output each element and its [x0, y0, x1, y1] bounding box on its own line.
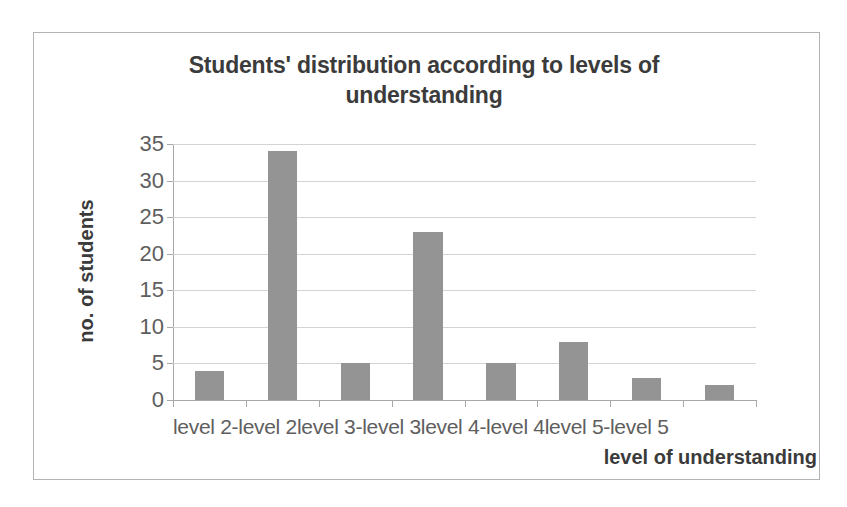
x-axis-tick — [756, 400, 757, 407]
x-axis-title: level of understanding — [173, 446, 817, 469]
bar — [341, 363, 370, 400]
y-axis-tick-label: 5 — [152, 350, 164, 376]
bar — [413, 232, 442, 400]
x-axis-tick — [683, 400, 684, 407]
y-axis-tick-label: 30 — [140, 168, 164, 194]
chart-title-line-1: Students' distribution according to leve… — [94, 51, 754, 81]
bar — [559, 342, 588, 401]
y-axis-tick-label: 35 — [140, 131, 164, 157]
x-axis-tick — [392, 400, 393, 407]
x-axis-tick — [319, 400, 320, 407]
y-axis-tick-label: 10 — [140, 314, 164, 340]
x-axis-tick — [610, 400, 611, 407]
x-axis-tick — [246, 400, 247, 407]
plot-area: 05101520253035 — [173, 144, 756, 400]
chart-title: Students' distribution according to leve… — [94, 51, 754, 111]
bar — [486, 363, 515, 400]
y-axis-tick-label: 20 — [140, 241, 164, 267]
y-axis-title: no. of students — [75, 199, 98, 342]
bar — [268, 151, 297, 400]
x-axis-tick — [537, 400, 538, 407]
y-axis-tick-label: 0 — [152, 387, 164, 413]
x-axis-tick — [173, 400, 174, 407]
bar — [195, 371, 224, 400]
x-axis-tick — [465, 400, 466, 407]
y-axis-tick-label: 25 — [140, 204, 164, 230]
y-axis-tick-label: 15 — [140, 277, 164, 303]
x-axis-category-labels: level 2-level 2level 3-level 3level 4-le… — [173, 415, 773, 439]
bar — [705, 385, 734, 400]
chart-frame: Students' distribution according to leve… — [33, 32, 820, 480]
bar — [632, 378, 661, 400]
bars-layer — [173, 144, 756, 400]
chart-title-line-2: understanding — [94, 81, 754, 111]
